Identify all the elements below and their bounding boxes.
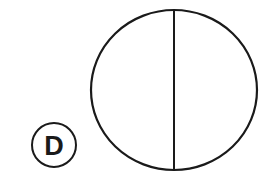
figure-label: D: [44, 131, 64, 161]
diagram-canvas: D: [0, 0, 265, 179]
